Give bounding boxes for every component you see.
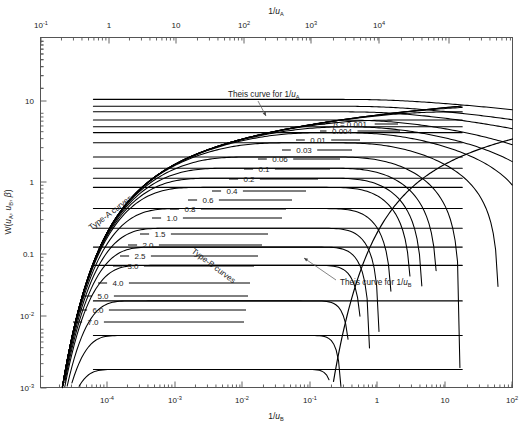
beta-curve-label: 0.06 — [272, 155, 288, 164]
beta-curve-label: 1.0 — [166, 214, 178, 223]
beta-curve-label: 0.8 — [184, 205, 196, 214]
axis-tick-label: 1 — [30, 178, 35, 187]
beta-curve-label: 2.5 — [134, 252, 146, 261]
axis-tick-label: 10 — [25, 97, 34, 106]
beta-curve-label: 4.0 — [112, 279, 124, 288]
beta-curve-label: 0.6 — [202, 196, 214, 205]
theis-b: Theis curve for 1/uB — [340, 278, 412, 288]
axis-tick-label: 1 — [375, 396, 380, 405]
beta-curve-label: 0.03 — [296, 146, 312, 155]
beta-curve-label: 2.0 — [142, 241, 154, 250]
beta-curve-label: 0.2 — [243, 175, 255, 184]
axis-tick-label: 10 — [172, 21, 181, 30]
axis-tick-label: 1 — [107, 21, 112, 30]
beta-curve-label: 1.5 — [154, 230, 166, 239]
top-axis-title-sub: A — [280, 11, 284, 17]
axis-tick-label: 0.1 — [23, 250, 35, 259]
beta-curve-label: 7.0 — [87, 318, 99, 327]
beta-curve-label: 6.0 — [92, 306, 104, 315]
theis-a: Theis curve for 1/uA — [228, 90, 300, 100]
figure-root: 10-1110102103104 10-410-310-210-1110102 … — [0, 0, 532, 425]
type-curve-chart: 10-1110102103104 10-410-310-210-1110102 … — [0, 0, 532, 425]
beta-curve-label: 5.0 — [97, 292, 109, 301]
left-axis-title: W(uA, uB, β) — [3, 189, 14, 234]
beta-curve-label: 0.4 — [226, 187, 238, 196]
beta-curve-label: 3.0 — [127, 262, 139, 271]
axis-tick-label: 10 — [441, 396, 450, 405]
beta-curve-label: 0.1 — [258, 165, 270, 174]
beta-curve-label: 0.004 — [332, 127, 353, 136]
bottom-axis-title-sub: B — [280, 416, 284, 422]
beta-curve-label: 0.01 — [310, 136, 326, 145]
